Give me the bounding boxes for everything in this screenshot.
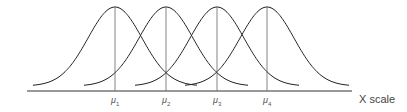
mean-label-4: μ4 — [263, 95, 271, 107]
mean-label-3: μ3 — [213, 95, 221, 107]
mean-label-2: μ2 — [162, 95, 170, 107]
normal-curves-diagram — [0, 0, 407, 112]
mean-label-1: μ1 — [111, 95, 119, 107]
x-axis-label: X scale — [359, 93, 395, 105]
